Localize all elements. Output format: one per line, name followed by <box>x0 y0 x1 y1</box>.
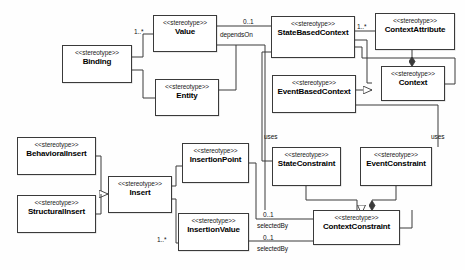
class-insertionvalue[interactable]: <<stereotype>> InsertionValue <box>178 213 249 251</box>
class-insertionpoint[interactable]: <<stereotype>> InsertionPoint <box>182 143 249 183</box>
class-insert[interactable]: <<stereotype>> Insert <box>108 176 172 213</box>
class-name: ContextAttribute <box>385 25 446 35</box>
edge-stateconstraint-contextconstraint-gen <box>306 186 357 210</box>
edge-label-uses-state: uses <box>264 133 277 141</box>
edge-statebased-uses-stateconstraint <box>262 52 272 161</box>
class-name: Insert <box>130 188 151 198</box>
multiplicity-value-dependson: 0..1 <box>243 18 253 26</box>
class-value[interactable]: <<stereotype>> Value <box>153 15 217 52</box>
class-name: InsertionValue <box>187 225 240 235</box>
class-name: StructuralInsert <box>28 207 85 217</box>
stereotype-label: <<stereotype>> <box>374 151 418 159</box>
class-contextconstraint[interactable]: <<stereotype>> ContextConstraint <box>313 210 400 245</box>
multiplicity-binding-value: 1..* <box>134 28 143 36</box>
class-name: EventConstraint <box>366 159 426 169</box>
class-binding[interactable]: <<stereotype>> Binding <box>62 45 132 83</box>
class-contextattribute[interactable]: <<stereotype>> ContextAttribute <box>375 13 455 50</box>
edge-insert-insertionpoint <box>172 166 182 186</box>
class-name: ContextConstraint <box>323 222 390 232</box>
edge-eventconstraint-contextconstraint <box>372 186 396 210</box>
class-name: StateConstraint <box>278 159 335 169</box>
class-eventconstraint[interactable]: <<stereotype>> EventConstraint <box>360 147 432 186</box>
stereotype-label: <<stereotype>> <box>75 49 119 57</box>
stereotype-label: <<stereotype>> <box>191 217 235 225</box>
edge-label-uses-event: uses <box>431 133 444 141</box>
stereotype-label: <<stereotype>> <box>34 199 78 207</box>
class-name: Binding <box>83 57 112 67</box>
class-context[interactable]: <<stereotype>> Context <box>381 66 445 101</box>
class-eventbasedcontext[interactable]: <<stereotype>> EventBasedContext <box>272 75 356 113</box>
stereotype-label: <<stereotype>> <box>292 79 336 87</box>
class-name: BehavioralInsert <box>26 149 86 159</box>
edge-binding-value <box>132 34 153 57</box>
edge-label-dependson: dependsOn <box>220 31 253 39</box>
edge-entity-value-stub <box>219 45 236 90</box>
class-name: StateBasedContext <box>278 28 349 38</box>
class-name: Context <box>399 78 428 88</box>
stereotype-label: <<stereotype>> <box>165 83 209 91</box>
edge-binding-entity <box>132 70 155 98</box>
class-stateconstraint[interactable]: <<stereotype>> StateConstraint <box>272 147 341 186</box>
stereotype-label: <<stereotype>> <box>334 214 378 222</box>
edge-value-contextconstraint <box>217 45 265 210</box>
edge-label-selectedby-point: selectedBy <box>257 222 288 230</box>
multiplicity-insertionpoint-selected: 0..1 <box>263 211 273 219</box>
multiplicity-state-contextattribute: 1..* <box>357 23 366 31</box>
multiplicity-insertionvalue-selected: 0..1 <box>263 234 273 242</box>
edge-statebased-context-gen <box>355 40 372 83</box>
multiplicity-insert-insertionvalue: 1..* <box>157 236 166 244</box>
class-behavioralinsert[interactable]: <<stereotype>> BehavioralInsert <box>17 137 96 175</box>
class-statebasedcontext[interactable]: <<stereotype>> StateBasedContext <box>271 16 355 58</box>
class-entity[interactable]: <<stereotype>> Entity <box>155 79 219 116</box>
stereotype-label: <<stereotype>> <box>284 151 328 159</box>
class-name: Entity <box>176 91 197 101</box>
stereotype-label: <<stereotype>> <box>291 20 335 28</box>
edge-contextconstraint-right-stub <box>400 210 412 228</box>
class-structuralinsert[interactable]: <<stereotype>> StructuralInsert <box>17 195 96 233</box>
edge-structuralinsert-insert-gen <box>96 194 101 214</box>
edge-behavioralinsert-insert-gen <box>96 156 108 194</box>
edge-eventbased-uses-eventconstraint <box>356 105 438 147</box>
stereotype-label: <<stereotype>> <box>393 17 437 25</box>
class-name: Value <box>175 27 195 37</box>
class-name: InsertionPoint <box>190 155 242 165</box>
stereotype-label: <<stereotype>> <box>163 19 207 27</box>
stereotype-label: <<stereotype>> <box>118 180 162 188</box>
stereotype-label: <<stereotype>> <box>193 147 237 155</box>
uml-class-diagram: <<stereotype>> Binding <<stereotype>> Va… <box>0 0 465 270</box>
class-name: EventBasedContext <box>277 87 350 97</box>
edge-label-selectedby-value: selectedBy <box>257 245 288 253</box>
stereotype-label: <<stereotype>> <box>34 141 78 149</box>
stereotype-label: <<stereotype>> <box>391 70 435 78</box>
